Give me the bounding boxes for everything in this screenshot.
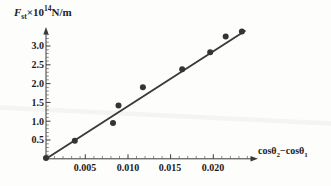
data-point	[207, 49, 213, 55]
data-point	[140, 84, 146, 90]
y-axis-major-ticks	[46, 46, 51, 140]
data-point	[116, 102, 122, 108]
plot-area	[0, 0, 331, 186]
data-point	[72, 138, 78, 144]
data-point	[239, 29, 245, 35]
x-axis-major-ticks	[85, 154, 213, 159]
data-point	[43, 155, 49, 161]
data-point	[223, 34, 229, 40]
fit-line	[48, 31, 245, 158]
x-axis	[46, 156, 258, 161]
data-point	[179, 66, 185, 72]
data-point	[110, 120, 116, 126]
y-axis	[43, 27, 48, 159]
figure-container: Fst×1014N/m cosθ2−cosθ1 3.0 2.5 2.0 1.5 …	[0, 0, 331, 186]
